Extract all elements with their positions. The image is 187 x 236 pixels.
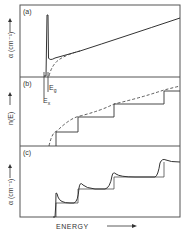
arrow-right-icon: [107, 224, 137, 228]
ylabel-a: α (cm⁻¹): [7, 18, 15, 58]
ex-label: Ex: [43, 97, 51, 106]
plot-frame: [20, 5, 180, 217]
arrow-up-icon: [8, 92, 12, 96]
ylabel-c: α (cm⁻¹): [7, 164, 15, 205]
panel-a-curves: [44, 15, 180, 76]
xlabel: ENERGY: [56, 223, 89, 230]
ylabel-b: n(E): [7, 92, 15, 125]
svg-text:n(E): n(E): [7, 112, 15, 125]
panel-label-a: (a): [23, 8, 32, 16]
panel-label-c: (c): [23, 149, 31, 157]
panel-b-curves: [49, 86, 180, 146]
svg-text:α (cm⁻¹): α (cm⁻¹): [7, 32, 15, 58]
arrow-up-icon: [8, 164, 12, 168]
arrow-up-icon: [8, 18, 12, 22]
panel-label-b: (b): [23, 80, 32, 88]
svg-text:α (cm⁻¹): α (cm⁻¹): [7, 179, 15, 205]
eg-label: Eg: [49, 84, 57, 93]
figure: (a) (b) (c) α (cm⁻¹) n(E) α (cm⁻¹) Eg Ex: [0, 0, 187, 236]
panel-c-curves: [53, 159, 180, 217]
